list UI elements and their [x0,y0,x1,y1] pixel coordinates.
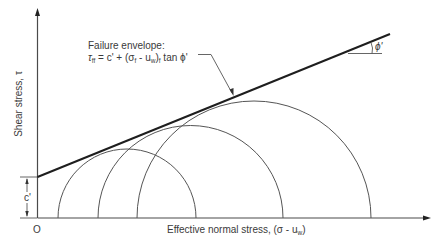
mohr-circle-3 [137,101,371,218]
y-axis-label: Shear stress, τ [13,71,24,137]
mohr-coulomb-diagram: ϕ' c' Failure envelope: τff = c' + (σf -… [0,0,440,242]
mohr-circle-2 [98,126,283,218]
cohesion-dimension: c' [20,177,37,218]
x-axis-label: Effective normal stress, (σ - uw) [167,224,306,236]
cohesion-arrow-up-icon [25,178,28,184]
cohesion-arrow-down-icon [25,211,28,217]
envelope-annotation: Failure envelope: τff = c' + (σf - uw)f … [88,40,234,96]
mohr-circles [58,101,371,218]
angle-arc [371,43,373,54]
y-axis-arrowhead [35,8,40,16]
envelope-label-title: Failure envelope: [88,40,165,51]
x-axis-label-close: ) [302,224,305,235]
envelope-equation: τff = c' + (σf - uw)f tan ϕ' [88,52,188,64]
cohesion-label: c' [24,192,31,203]
origin-label: O [33,224,41,235]
x-axis-arrowhead [423,216,431,221]
friction-angle-label: ϕ' [375,41,384,52]
envelope-leader-line [198,55,232,94]
eq-tail: tan ϕ' [161,52,188,63]
x-axis-label-text: Effective normal stress, (σ - u [167,224,297,235]
eq-mid2: - u [136,52,150,63]
eq-mid: = c' + (σ [95,52,135,63]
